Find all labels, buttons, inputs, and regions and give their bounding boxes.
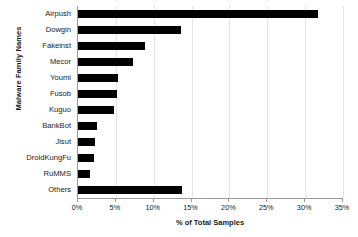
bar-slot	[78, 102, 343, 118]
bar	[78, 26, 181, 34]
category-label: Dowgin	[12, 22, 74, 38]
bar-slot	[78, 134, 343, 150]
bar	[78, 122, 97, 130]
bar-series	[78, 6, 343, 198]
x-axis-tick	[77, 198, 78, 202]
bar-slot	[78, 22, 343, 38]
x-axis-title: % of Total Samples	[77, 218, 343, 227]
bar-slot	[78, 150, 343, 166]
bar-slot	[78, 118, 343, 134]
bar-slot	[78, 38, 343, 54]
x-axis-tick	[266, 198, 267, 202]
bar	[78, 170, 90, 178]
bar-slot	[78, 54, 343, 70]
bar	[78, 138, 95, 146]
bar-chart: Malware Family Names AirpushDowginFakein…	[0, 0, 358, 237]
bar	[78, 74, 118, 82]
bar-slot	[78, 166, 343, 182]
category-label: RuMMS	[12, 166, 74, 182]
bar	[78, 90, 117, 98]
bar	[78, 10, 318, 18]
x-axis-tick-label: 35%	[335, 203, 350, 212]
bar-slot	[78, 86, 343, 102]
category-label: DroidKungFu	[12, 150, 74, 166]
x-axis-tick	[191, 198, 192, 202]
x-axis-tick-label: 5%	[110, 203, 121, 212]
x-axis-tick	[115, 198, 116, 202]
category-label: Fakeinst	[12, 38, 74, 54]
x-axis-tick-label: 15%	[183, 203, 198, 212]
bar-slot	[78, 6, 343, 22]
bar	[78, 186, 182, 194]
category-label: Airpush	[12, 6, 74, 22]
x-axis-tick-label: 20%	[221, 203, 236, 212]
x-axis-line	[77, 198, 343, 199]
bar	[78, 154, 94, 162]
category-label: Fusob	[12, 86, 74, 102]
x-axis-tick	[153, 198, 154, 202]
category-label: Others	[12, 182, 74, 198]
x-axis-tick-label: 0%	[72, 203, 83, 212]
bar	[78, 106, 114, 114]
gridline	[343, 6, 344, 198]
x-axis-tick-label: 30%	[297, 203, 312, 212]
bar-slot	[78, 70, 343, 86]
bar	[78, 42, 145, 50]
x-axis-tick	[304, 198, 305, 202]
category-label: Mecor	[12, 54, 74, 70]
x-axis-tick-label: 25%	[259, 203, 274, 212]
x-axis-tick	[342, 198, 343, 202]
bar	[78, 58, 133, 66]
category-label: Youmi	[12, 70, 74, 86]
category-label-list: AirpushDowginFakeinstMecorYoumiFusobKugu…	[12, 6, 74, 198]
bar-slot	[78, 182, 343, 198]
category-label: Jisut	[12, 134, 74, 150]
category-label: BankBot	[12, 118, 74, 134]
category-label: Kuguo	[12, 102, 74, 118]
x-axis-tick-label: 10%	[145, 203, 160, 212]
x-axis-tick	[228, 198, 229, 202]
plot-area	[77, 6, 343, 198]
